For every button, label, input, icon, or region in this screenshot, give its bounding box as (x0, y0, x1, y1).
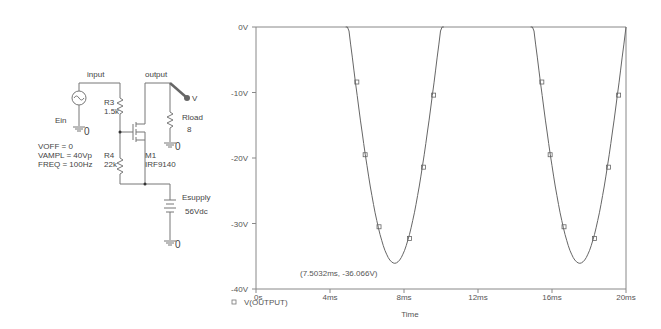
x-tick-label: 12ms (468, 293, 488, 302)
r3-name: R3 (104, 98, 114, 107)
junction-dot (144, 183, 147, 186)
voltage-probe[interactable] (170, 83, 186, 97)
legend-label[interactable]: V(OUTPUT) (244, 298, 288, 307)
y-tick-label: -40V (231, 285, 249, 294)
ground-label: 0 (175, 142, 181, 151)
rload-value: 8 (187, 125, 191, 134)
r3-value: 1.5k (104, 107, 119, 116)
plot-canvas[interactable]: 0V-10V-20V-30V-40V0s4ms8ms12ms16ms20ms (… (220, 0, 661, 329)
waveform-plot[interactable]: 0V-10V-20V-30V-40V0s4ms8ms12ms16ms20ms (… (220, 0, 661, 329)
source-param-freq: FREQ = 100Hz (38, 160, 92, 169)
y-tick-label: -30V (231, 220, 249, 229)
x-axis-label: Time (401, 310, 419, 319)
cursor-readout: (7.5032ms, -36.066V) (300, 269, 378, 278)
probe-label: V (192, 94, 197, 103)
trace-markers (355, 80, 621, 241)
y-tick-label: 0V (238, 23, 248, 32)
m1-name: M1 (145, 151, 156, 160)
y-tick-label: -10V (231, 89, 249, 98)
supply-name: Esupply (182, 193, 210, 202)
net-label-input: input (87, 70, 104, 79)
probe-tip-icon (184, 95, 190, 101)
r4-name: R4 (104, 151, 114, 160)
r4-value: 22k (104, 160, 117, 169)
rload-name: Rload (182, 113, 203, 122)
net-label-output: output (145, 70, 167, 79)
trace-v-output[interactable] (346, 27, 626, 263)
x-tick-label: 16ms (542, 293, 562, 302)
x-tick-label: 8ms (396, 293, 411, 302)
x-tick-label: 4ms (322, 293, 337, 302)
x-tick-label: 20ms (616, 293, 636, 302)
legend-marker-icon (232, 300, 236, 304)
source-param-vampl: VAMPL = 40Vp (38, 151, 92, 160)
ground-label: 0 (175, 240, 181, 249)
y-tick-label: -20V (231, 154, 249, 163)
junction-dot (119, 131, 122, 134)
circuit-schematic: input output V Ein 0 VOFF = 0 VAMPL = 40… (0, 0, 230, 329)
m1-value: IRF9140 (145, 160, 176, 169)
source-name: Ein (55, 116, 67, 125)
source-param-voff: VOFF = 0 (38, 142, 73, 151)
ground-label: 0 (84, 127, 90, 136)
supply-value: 56Vdc (185, 207, 208, 216)
